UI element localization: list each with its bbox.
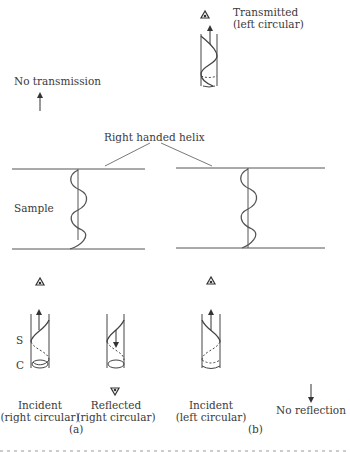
no-transmission-label: No transmission bbox=[14, 75, 101, 87]
incident-b-label-line1: Incident bbox=[171, 399, 251, 411]
incident-a-label-line1: Incident bbox=[0, 399, 80, 411]
sample-slab-b bbox=[176, 168, 325, 248]
panel-a-label: (a) bbox=[69, 423, 83, 435]
incident-left-circular-tube bbox=[202, 312, 220, 369]
incident-b-label-line2: (left circular) bbox=[171, 411, 251, 423]
eye-icon-incident-a bbox=[36, 278, 44, 285]
incident-a-label-line2: (right circular) bbox=[0, 411, 80, 423]
pointer-line-right bbox=[161, 143, 212, 166]
incident-right-circular-tube bbox=[31, 312, 49, 368]
no-reflection-label: No reflection bbox=[268, 404, 350, 416]
eye-icon-reflected bbox=[111, 388, 119, 395]
transmitted-helix-tube bbox=[201, 28, 217, 87]
eye-icon-incident-b bbox=[207, 277, 215, 284]
transmitted-label-line2: (left circular) bbox=[233, 18, 304, 30]
transmitted-label-line1: Transmitted bbox=[233, 6, 298, 18]
reflected-label-line2: (right circular) bbox=[76, 411, 156, 423]
pointer-line-left bbox=[105, 143, 150, 166]
reflected-label-line1: Reflected bbox=[76, 399, 156, 411]
reflected-right-circular-tube bbox=[107, 314, 124, 368]
panel-b-label: (b) bbox=[248, 423, 263, 435]
sample-label: Sample bbox=[14, 202, 54, 214]
c-label: C bbox=[16, 359, 24, 371]
right-handed-helix-label: Right handed helix bbox=[104, 131, 205, 143]
circular-polarization-diagram bbox=[0, 0, 350, 452]
s-label: S bbox=[16, 334, 23, 346]
eye-icon-transmitted bbox=[201, 11, 209, 18]
